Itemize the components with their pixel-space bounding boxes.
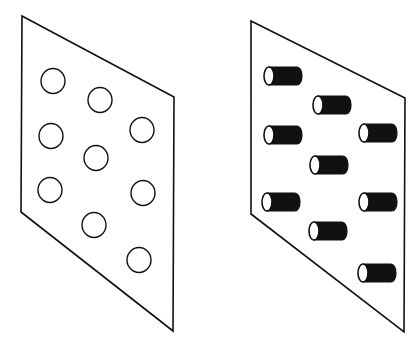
cylinder-rod	[310, 156, 348, 174]
rod-end-face	[264, 67, 274, 85]
cylinder-rod	[264, 67, 302, 85]
circular-hole	[39, 124, 63, 149]
circular-hole	[41, 69, 65, 94]
rod-end-face	[313, 96, 323, 114]
diagram-canvas	[0, 0, 420, 344]
circular-hole	[127, 248, 151, 273]
left-plane-outline	[21, 16, 174, 331]
rod-end-face	[309, 222, 319, 240]
circular-hole	[84, 146, 108, 171]
cylinder-rod	[359, 124, 397, 142]
circular-hole	[130, 118, 154, 143]
circular-hole	[88, 88, 112, 113]
cylinder-rod	[358, 264, 396, 282]
right-plane-with-rods	[251, 21, 405, 332]
rod-end-face	[310, 156, 320, 174]
cylinder-rod	[309, 222, 347, 240]
rod-end-face	[264, 126, 274, 144]
circular-hole	[38, 178, 62, 203]
rod-end-face	[262, 193, 272, 211]
circular-hole	[82, 213, 106, 238]
rod-end-face	[359, 193, 369, 211]
cylinder-rod	[359, 193, 397, 211]
rod-end-face	[359, 124, 369, 142]
cylinder-rod	[262, 193, 300, 211]
cylinder-rod	[264, 126, 302, 144]
rod-end-face	[358, 264, 368, 282]
left-plane-with-holes	[21, 16, 174, 331]
cylinder-rod	[313, 96, 351, 114]
circular-hole	[131, 181, 155, 206]
